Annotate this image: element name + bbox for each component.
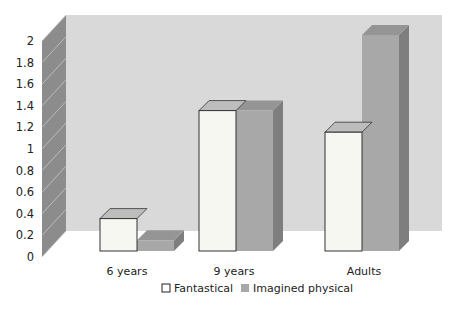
x-axis: 6 years9 yearsAdults — [107, 265, 382, 278]
bar-fantastical — [199, 111, 236, 251]
bar-imagined-physical — [362, 35, 399, 251]
x-tick-label: 6 years — [107, 265, 148, 278]
legend-swatch-fantastical — [162, 284, 170, 292]
bar-chart: 00.20.40.60.811.21.41.61.82 6 years9 yea… — [0, 0, 461, 311]
legend-label-fantastical: Fantastical — [174, 282, 233, 295]
bar-imagined-physical — [236, 111, 273, 251]
bar-imagined-physical — [137, 240, 174, 251]
y-tick-label: 1 — [27, 142, 34, 156]
x-tick-label: 9 years — [214, 265, 255, 278]
y-tick-label: 2 — [27, 34, 34, 48]
y-tick-label: 0.4 — [16, 207, 34, 221]
y-tick-label: 1.2 — [16, 120, 34, 134]
y-tick-label: 1.6 — [16, 77, 34, 91]
y-tick-label: 0.6 — [16, 185, 34, 199]
bar-side-imagined-physical — [273, 101, 283, 251]
y-axis: 00.20.40.60.811.21.41.61.82 — [16, 34, 34, 264]
y-tick-label: 1.4 — [16, 99, 34, 113]
x-tick-label: Adults — [347, 265, 382, 278]
y-tick-label: 0.2 — [16, 228, 34, 242]
bar-side-imagined-physical — [399, 25, 409, 251]
y-tick-label: 0 — [27, 250, 34, 264]
bar-fantastical — [325, 132, 362, 251]
y-tick-label: 1.8 — [16, 56, 34, 70]
legend: FantasticalImagined physical — [162, 282, 353, 295]
y-tick-label: 0.8 — [16, 164, 34, 178]
bar-fantastical — [100, 219, 137, 251]
legend-label-imagined-physical: Imagined physical — [253, 282, 353, 295]
legend-swatch-imagined-physical — [241, 284, 249, 292]
